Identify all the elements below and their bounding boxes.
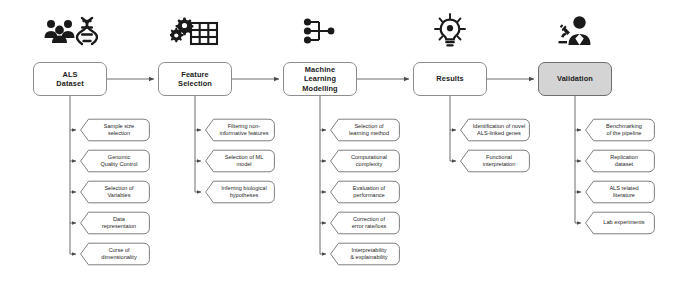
callout-machine-learning-modelling-3[interactable]: Evaluation ofperformance: [329, 180, 401, 204]
callout-feature-selection-1[interactable]: Filtering non-informative features: [204, 118, 276, 142]
stage-box-validation[interactable]: Validation: [538, 62, 612, 96]
callout-validation-3[interactable]: ALS relatedliterature: [584, 180, 656, 204]
callout-label: Correction oferror rate/loss: [338, 211, 398, 235]
flowchart-canvas: ALSDataset FeatureSelection MachineLearn…: [0, 0, 681, 300]
callout-label: Inferring biologicalhypotheses: [213, 180, 273, 204]
callout-label: Replicationdataset: [593, 149, 653, 173]
callout-validation-1[interactable]: Benchmarkingof the pipeline: [584, 118, 656, 142]
callout-als-dataset-2[interactable]: GenomicQuality Control: [79, 149, 151, 173]
callout-label: Curse ofdimensionality: [88, 242, 148, 266]
node-tree-icon: [283, 8, 357, 54]
people-dna-icon: [33, 8, 107, 54]
callout-feature-selection-2[interactable]: Selection of MLmodel: [204, 149, 276, 173]
stage-box-feature-selection[interactable]: FeatureSelection: [158, 62, 232, 96]
callout-label: Datarepresentaion: [88, 211, 148, 235]
callout-label: Interpretability& explainability: [338, 242, 398, 266]
stage-label-feature-selection: FeatureSelection: [176, 70, 214, 88]
lightbulb-icon: [413, 8, 487, 54]
callout-machine-learning-modelling-5[interactable]: Interpretability& explainability: [329, 242, 401, 266]
callout-label: ALS relatedliterature: [593, 180, 653, 204]
callout-label: Evaluation ofperformance: [338, 180, 398, 204]
callout-label: Selection of MLmodel: [213, 149, 273, 173]
scientist-microscope-icon: [538, 8, 612, 54]
callout-als-dataset-5[interactable]: Curse ofdimensionality: [79, 242, 151, 266]
gears-table-icon: [158, 8, 232, 54]
callout-machine-learning-modelling-2[interactable]: Computationalcomplexity: [329, 149, 401, 173]
stage-label-machine-learning-modelling: MachineLearningModelling: [300, 65, 339, 92]
stage-box-machine-learning-modelling[interactable]: MachineLearningModelling: [283, 62, 357, 96]
callout-label: Benchmarkingof the pipeline: [593, 118, 653, 142]
callout-machine-learning-modelling-1[interactable]: Selection oflearning method: [329, 118, 401, 142]
callout-label: Selection oflearning method: [338, 118, 398, 142]
callout-label: Lab experiments: [593, 211, 653, 235]
callout-label: Identification of novelALS-linked genes: [468, 118, 528, 142]
callout-als-dataset-4[interactable]: Datarepresentaion: [79, 211, 151, 235]
stage-label-results: Results: [434, 74, 465, 83]
callout-results-1[interactable]: Identification of novelALS-linked genes: [459, 118, 531, 142]
stage-label-validation: Validation: [555, 74, 595, 83]
callout-results-2[interactable]: Functionalinterpretation: [459, 149, 531, 173]
callout-validation-4[interactable]: Lab experiments: [584, 211, 656, 235]
stage-label-als-dataset: ALSDataset: [54, 70, 85, 88]
callout-feature-selection-3[interactable]: Inferring biologicalhypotheses: [204, 180, 276, 204]
callout-machine-learning-modelling-4[interactable]: Correction oferror rate/loss: [329, 211, 401, 235]
callout-label: GenomicQuality Control: [88, 149, 148, 173]
callout-label: Computationalcomplexity: [338, 149, 398, 173]
callout-als-dataset-3[interactable]: Selection ofVariables: [79, 180, 151, 204]
callout-als-dataset-1[interactable]: Sample sizeselection: [79, 118, 151, 142]
callout-label: Sample sizeselection: [88, 118, 148, 142]
callout-label: Functionalinterpretation: [468, 149, 528, 173]
stage-box-results[interactable]: Results: [413, 62, 487, 96]
stage-box-als-dataset[interactable]: ALSDataset: [33, 62, 107, 96]
callout-label: Selection ofVariables: [88, 180, 148, 204]
callout-label: Filtering non-informative features: [213, 118, 273, 142]
callout-validation-2[interactable]: Replicationdataset: [584, 149, 656, 173]
